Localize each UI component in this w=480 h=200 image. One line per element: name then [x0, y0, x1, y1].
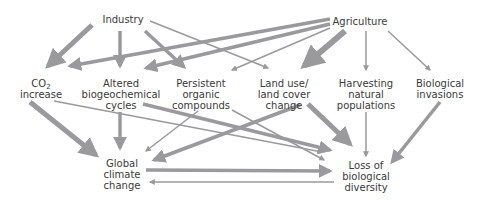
landuse-line-1: Land use/: [258, 78, 311, 89]
node-altered-biogeochemical-cycles: Altered biogeochemical cycles: [82, 78, 161, 111]
arrow-industry-co2: [48, 25, 92, 66]
arrow-invasions-biodiversity: [392, 102, 440, 162]
climate-line-1: Global: [104, 158, 141, 169]
biodiversity-line-3: diversity: [342, 182, 390, 193]
node-biological-invasions: Biological invasions: [416, 78, 464, 100]
node-co2-increase: CO2 increase: [20, 78, 62, 100]
climate-line-3: change: [104, 180, 141, 191]
altered-line-1: Altered: [82, 78, 161, 89]
co2-line-2: increase: [20, 89, 62, 100]
node-global-climate-change: Global climate change: [104, 158, 141, 191]
arrow-persistent-biodiversity: [232, 110, 324, 160]
arrow-climate-biodiversity: [146, 170, 330, 171]
diagram-canvas: Industry Agriculture CO2 increase Altere…: [0, 0, 480, 200]
biodiversity-line-2: biological: [342, 171, 390, 182]
node-industry-label: Industry: [102, 14, 143, 25]
harvesting-line-3: populations: [337, 100, 395, 111]
node-land-use-change: Land use/ land cover change: [258, 78, 311, 111]
persistent-line-1: Persistent: [172, 78, 230, 89]
invasions-line-2: invasions: [416, 89, 464, 100]
biodiversity-line-1: Loss of: [342, 160, 390, 171]
co2-text: CO: [31, 78, 46, 89]
altered-line-3: cycles: [82, 100, 161, 111]
node-harvesting-natural-populations: Harvesting natural populations: [337, 78, 395, 111]
persistent-line-3: compounds: [172, 100, 230, 111]
harvesting-line-1: Harvesting: [337, 78, 395, 89]
landuse-line-3: change: [258, 100, 311, 111]
landuse-line-2: land cover: [258, 89, 311, 100]
arrow-layer: [0, 0, 480, 200]
node-loss-of-biological-diversity: Loss of biological diversity: [342, 160, 390, 193]
node-industry: Industry: [102, 14, 143, 25]
altered-line-2: biogeochemical: [82, 89, 161, 100]
arrow-agriculture-invasions: [388, 31, 430, 70]
harvesting-line-2: natural: [337, 89, 395, 100]
persistent-line-2: organic: [172, 89, 230, 100]
node-agriculture-label: Agriculture: [333, 16, 388, 27]
node-agriculture: Agriculture: [333, 16, 388, 27]
climate-line-2: climate: [104, 169, 141, 180]
arrow-agriculture-co2: [70, 19, 330, 66]
node-persistent-organic-compounds: Persistent organic compounds: [172, 78, 230, 111]
invasions-line-1: Biological: [416, 78, 464, 89]
